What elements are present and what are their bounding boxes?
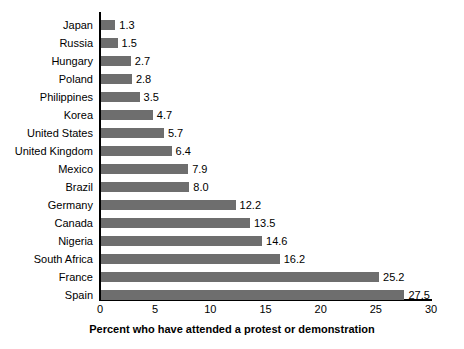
bar-row: Nigeria14.6 [0,232,464,250]
bar-row: Brazil8.0 [0,178,464,196]
bar-row: United States5.7 [0,124,464,142]
bar [101,200,236,210]
bar [101,38,118,48]
category-label: Philippines [0,88,93,106]
bar-row: Russia1.5 [0,34,464,52]
x-tick-label: 0 [97,303,103,315]
bar-row: South Africa16.2 [0,250,464,268]
bar-value-label: 4.7 [157,106,172,124]
category-label: Canada [0,214,93,232]
x-tick-label: 30 [425,303,437,315]
bar [101,74,132,84]
bar-value-label: 5.7 [168,124,183,142]
bar [101,128,164,138]
x-tick-label: 15 [259,303,271,315]
category-label: Russia [0,34,93,52]
category-label: Korea [0,106,93,124]
category-label: France [0,268,93,286]
category-label: United Kingdom [0,142,93,160]
bar-row: France25.2 [0,268,464,286]
bar-value-label: 1.5 [122,34,137,52]
bar [101,182,189,192]
bar-row: Germany12.2 [0,196,464,214]
category-label: United States [0,124,93,142]
bar-row: Korea4.7 [0,106,464,124]
bar-value-label: 1.3 [119,16,134,34]
x-tick-label: 10 [204,303,216,315]
bar-value-label: 3.5 [144,88,159,106]
bar-row: United Kingdom6.4 [0,142,464,160]
bar-value-label: 2.7 [135,52,150,70]
category-label: Germany [0,196,93,214]
bar [101,56,131,66]
bar-value-label: 2.8 [136,70,151,88]
x-tick-label: 20 [315,303,327,315]
x-tick-label: 25 [370,303,382,315]
category-label: Nigeria [0,232,93,250]
bar [101,272,379,282]
bar-chart: Japan1.3Russia1.5Hungary2.7Poland2.8Phil… [0,0,464,349]
bar-value-label: 13.5 [254,214,275,232]
x-axis-title: Percent who have attended a protest or d… [0,323,464,335]
category-label: Japan [0,16,93,34]
bar [101,254,280,264]
bar-value-label: 25.2 [383,268,404,286]
bar-row: Hungary2.7 [0,52,464,70]
bar-value-label: 27.5 [408,286,429,304]
bar-row: Canada13.5 [0,214,464,232]
bar [101,290,404,300]
plot-area: Japan1.3Russia1.5Hungary2.7Poland2.8Phil… [0,0,464,349]
bar-row: Japan1.3 [0,16,464,34]
category-label: Spain [0,286,93,304]
category-label: Poland [0,70,93,88]
bar-row: Poland2.8 [0,70,464,88]
bar [101,20,115,30]
bar-value-label: 7.9 [192,160,207,178]
bar-value-label: 16.2 [284,250,305,268]
bar [101,236,262,246]
bar [101,146,172,156]
bar [101,164,188,174]
bar [101,218,250,228]
category-label: Brazil [0,178,93,196]
category-label: Hungary [0,52,93,70]
category-label: Mexico [0,160,93,178]
bar [101,92,140,102]
bar-value-label: 8.0 [193,178,208,196]
bar-row: Mexico7.9 [0,160,464,178]
category-label: South Africa [0,250,93,268]
bar-row: Philippines3.5 [0,88,464,106]
bar-value-label: 12.2 [240,196,261,214]
bar-value-label: 14.6 [266,232,287,250]
bar [101,110,153,120]
bar-row: Spain27.5 [0,286,464,304]
bar-value-label: 6.4 [176,142,191,160]
x-tick-label: 5 [152,303,158,315]
